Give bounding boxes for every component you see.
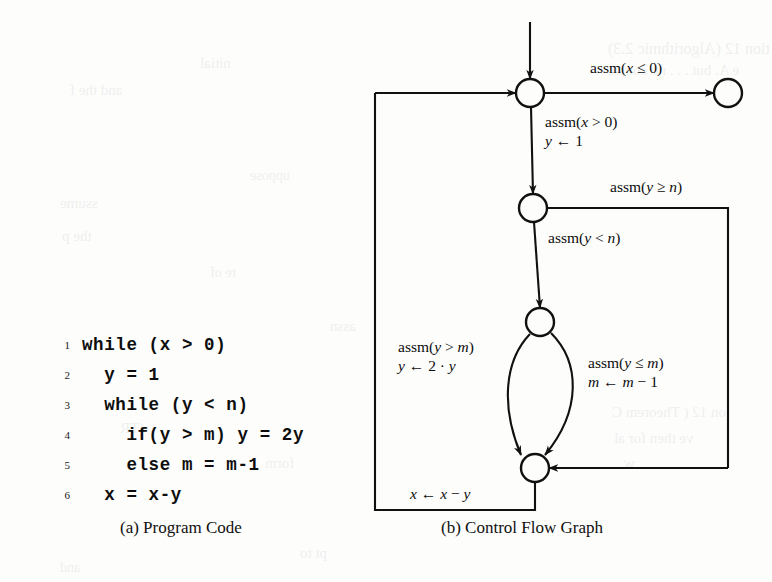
edge-label-assm-y-gt-m: assm(y > m)y ← 2 · y <box>398 337 474 375</box>
edge-label-line: y ← 1 <box>545 131 617 150</box>
edge-label-assm-y-le-m: assm(y ≤ m)m ← m − 1 <box>588 353 664 391</box>
edge-label-line: assm(x > 0) <box>545 112 617 131</box>
inner-loop-head-node <box>519 194 547 222</box>
edge-label-line: x ← x − y <box>410 484 470 503</box>
edge-head-to-inner <box>531 107 533 194</box>
figure-page: tion 12 (Algorithmic 2.3)e A. but . . . … <box>0 0 772 582</box>
edge-label-assm-y-ge-n: assm(y ≥ n) <box>610 177 682 196</box>
control-flow-graph-svg <box>0 0 772 582</box>
edge-branch-right <box>545 333 573 455</box>
edge-loop-back <box>375 93 535 510</box>
merge-node <box>521 454 549 482</box>
edge-label-line: assm(y < n) <box>548 228 620 247</box>
edge-label-assm-x-gt-0: assm(x > 0)y ← 1 <box>545 112 617 150</box>
exit-node <box>714 79 742 107</box>
loop-head-node <box>516 79 544 107</box>
edge-label-line: assm(y ≥ n) <box>610 177 682 196</box>
edge-label-line: assm(x ≤ 0) <box>590 58 662 77</box>
caption-control-flow-graph: (b) Control Flow Graph <box>441 518 603 538</box>
edge-label-assm-x-le-0: assm(x ≤ 0) <box>590 58 662 77</box>
edge-label-line: assm(y > m) <box>398 337 474 356</box>
edge-label-x-assign: x ← x − y <box>410 484 470 503</box>
edge-inner-exit <box>547 208 728 468</box>
edge-label-line: assm(y ≤ m) <box>588 353 664 372</box>
edge-label-line: y ← 2 · y <box>398 356 474 375</box>
edge-branch-left <box>508 334 530 455</box>
control-flow-graph: assm(x ≤ 0)assm(x > 0)y ← 1assm(y ≥ n)as… <box>0 0 772 582</box>
edge-label-line: m ← m − 1 <box>588 372 664 391</box>
edge-label-assm-y-lt-n: assm(y < n) <box>548 228 620 247</box>
caption-program-code: (a) Program Code <box>120 518 242 538</box>
branch-node <box>526 308 554 336</box>
edge-inner-to-branch <box>534 222 540 308</box>
